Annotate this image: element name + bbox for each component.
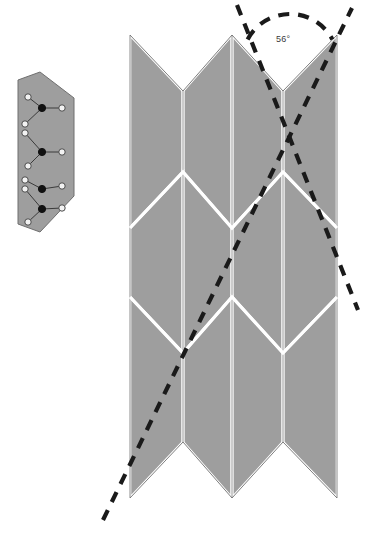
incoming-ray <box>103 8 352 520</box>
figure-canvas: 56° <box>0 0 374 537</box>
outgoing-ray <box>237 5 358 310</box>
dashed-ray-overlay <box>0 0 374 537</box>
angle-label: 56° <box>276 34 290 44</box>
